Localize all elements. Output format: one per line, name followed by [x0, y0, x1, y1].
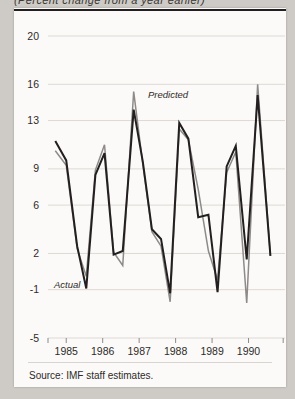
y-tick-label: 2: [33, 247, 39, 259]
x-tick-label: 1988: [164, 345, 188, 357]
x-axis-labels: 198519861987198819891990: [55, 345, 261, 357]
footer-divider: [28, 362, 272, 363]
gridlines: [48, 36, 285, 338]
y-tick-label: -1: [30, 283, 39, 295]
predicted-series-label: Predicted: [148, 89, 189, 100]
y-tick-label: 20: [27, 30, 39, 42]
x-tick-label: 1986: [91, 345, 115, 357]
x-tick-label: 1987: [127, 345, 151, 357]
y-tick-label: 6: [33, 199, 39, 211]
x-tick-label: 1990: [237, 345, 261, 357]
line-chart: 201613962-1-5 198519861987198819891990 A…: [0, 0, 295, 399]
actual-series-label: Actual: [53, 279, 81, 290]
x-tick-label: 1985: [55, 345, 79, 357]
x-tick-label: 1989: [200, 345, 224, 357]
axis-ticks: [48, 338, 283, 343]
y-tick-label: 13: [27, 114, 39, 126]
figure-container: (Percent change from a year earlier) 201…: [0, 0, 295, 399]
y-tick-label: 16: [27, 78, 39, 90]
source-note: Source: IMF staff estimates.: [29, 370, 153, 381]
y-tick-label: 9: [33, 162, 39, 174]
y-tick-label: -5: [30, 332, 39, 344]
data-series: [55, 84, 270, 303]
y-axis-labels: 201613962-1-5: [27, 30, 39, 344]
